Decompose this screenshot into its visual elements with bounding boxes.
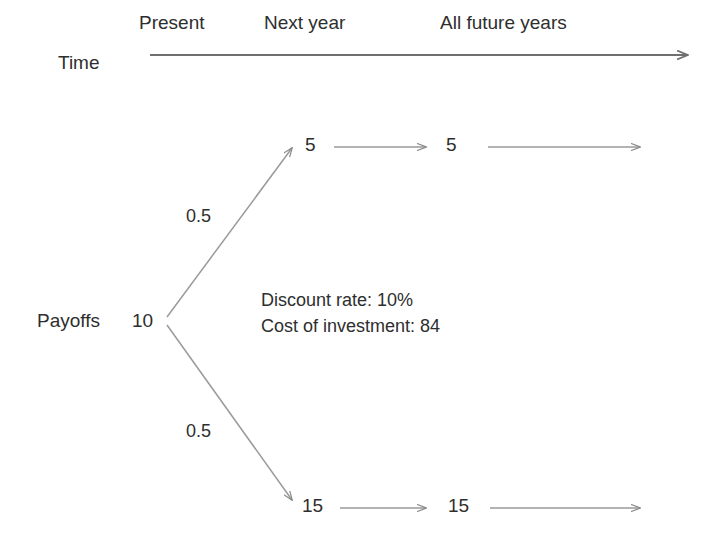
note-cost-of-investment: Cost of investment: 84 bbox=[261, 314, 440, 340]
node-down-next-year-value: 15 bbox=[302, 496, 323, 515]
node-root-value: 10 bbox=[132, 311, 153, 330]
node-down-future-value: 15 bbox=[448, 496, 469, 515]
branch-down-probability: 0.5 bbox=[186, 422, 211, 440]
node-up-next-year-value: 5 bbox=[305, 135, 316, 154]
diagram-canvas: Present Next year All future years Time … bbox=[0, 0, 707, 540]
branch-down-line bbox=[167, 325, 292, 500]
node-up-future-value: 5 bbox=[446, 135, 457, 154]
column-header-present: Present bbox=[139, 13, 204, 32]
branch-up-probability: 0.5 bbox=[186, 207, 211, 225]
row-label-time: Time bbox=[58, 53, 100, 72]
note-discount-rate: Discount rate: 10% bbox=[261, 288, 440, 314]
column-header-next-year: Next year bbox=[264, 13, 345, 32]
column-header-all-future-years: All future years bbox=[440, 13, 567, 32]
assumptions-note: Discount rate: 10% Cost of investment: 8… bbox=[261, 288, 440, 339]
row-label-payoffs: Payoffs bbox=[37, 311, 100, 330]
diagram-lines-layer bbox=[0, 0, 707, 540]
